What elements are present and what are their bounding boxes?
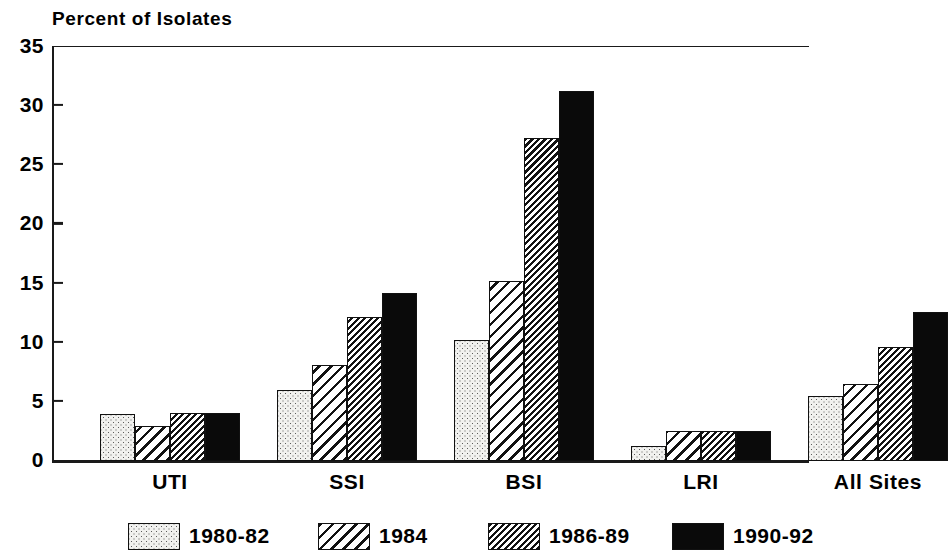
bar: [913, 312, 948, 461]
bar-group: [631, 46, 771, 461]
chart-title: Percent of Isolates: [52, 8, 232, 30]
bar: [205, 413, 240, 461]
bar: [736, 431, 771, 461]
x-axis-category-label: UTI: [152, 470, 188, 494]
bar: [489, 281, 524, 461]
bar: [878, 347, 913, 461]
bar: [454, 340, 489, 461]
bar-group: [454, 46, 594, 461]
legend-swatch-icon: [672, 523, 724, 550]
x-axis-category-label: BSI: [506, 470, 543, 494]
y-axis-tick-label: 30: [4, 93, 44, 117]
legend-swatch-icon: [128, 523, 180, 550]
x-axis-category-label: All Sites: [834, 470, 922, 494]
legend-item[interactable]: 1984: [318, 516, 428, 556]
legend-swatch-icon: [488, 523, 540, 550]
y-axis-tick-label: 10: [4, 330, 44, 354]
y-axis-tick-label: 15: [4, 271, 44, 295]
bar: [312, 365, 347, 461]
bar: [277, 390, 312, 461]
legend-item-label: 1984: [379, 524, 428, 548]
bar: [631, 446, 666, 461]
bar: [701, 431, 736, 461]
y-axis-tick-label: 35: [4, 34, 44, 58]
chart-legend: 1980-8219841986-891990-92: [0, 516, 813, 558]
legend-item-label: 1986-89: [549, 524, 630, 548]
bar: [843, 384, 878, 461]
y-axis-tick-label: 25: [4, 152, 44, 176]
x-axis-category-label: LRI: [683, 470, 719, 494]
legend-item-label: 1980-82: [189, 524, 270, 548]
legend-item[interactable]: 1990-92: [672, 516, 814, 556]
bar-group: [808, 46, 948, 461]
bar: [135, 426, 170, 461]
bar-group: [100, 46, 240, 461]
bar: [559, 91, 594, 461]
legend-item[interactable]: 1980-82: [128, 516, 270, 556]
bar: [808, 396, 843, 461]
bar: [170, 413, 205, 461]
bar: [382, 293, 417, 461]
legend-item[interactable]: 1986-89: [488, 516, 630, 556]
bar: [666, 431, 701, 461]
bar-group: [277, 46, 417, 461]
y-axis-tick-label: 5: [4, 389, 44, 413]
bar: [100, 414, 135, 461]
legend-item-label: 1990-92: [733, 524, 814, 548]
bar: [347, 317, 382, 461]
x-axis-category-label: SSI: [329, 470, 365, 494]
y-axis-tick-label: 0: [4, 448, 44, 472]
y-axis-tick-label: 20: [4, 211, 44, 235]
legend-swatch-icon: [318, 523, 370, 550]
bar: [524, 138, 559, 461]
